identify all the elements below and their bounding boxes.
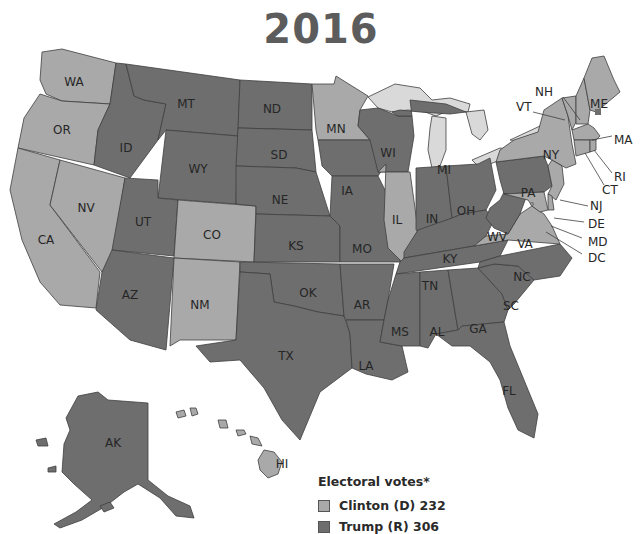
label-ne: NE (272, 193, 289, 207)
label-al: AL (430, 325, 445, 339)
us-electoral-map: WA OR CA NV ID MT WY UT AZ CO NM ND SD N… (0, 0, 642, 534)
legend-item-trump: Trump (R) 306 (318, 516, 446, 534)
label-va: VA (517, 237, 533, 251)
label-nv: NV (77, 201, 95, 215)
label-wa: WA (64, 75, 84, 89)
state-fl[interactable] (436, 322, 538, 438)
label-il: IL (392, 213, 403, 227)
label-fl: FL (502, 384, 516, 398)
label-mn: MN (326, 122, 345, 136)
alaska-island (36, 438, 48, 446)
label-nj: NJ (590, 199, 603, 213)
label-nh: NH (535, 85, 553, 99)
label-or: OR (53, 123, 71, 137)
label-oh: OH (457, 204, 475, 218)
label-ca: CA (38, 233, 55, 247)
label-wi: WI (380, 146, 395, 160)
label-tn: TN (421, 279, 438, 293)
label-mo: MO (352, 242, 372, 256)
state-ri[interactable] (590, 140, 596, 152)
label-ks: KS (288, 239, 304, 253)
label-tx: TX (277, 349, 294, 363)
label-ak: AK (105, 436, 122, 450)
label-nm: NM (190, 298, 209, 312)
state-ak[interactable] (54, 392, 194, 528)
state-ct[interactable] (574, 140, 590, 156)
hawaii-island (218, 420, 228, 428)
legend-item-clinton: Clinton (D) 232 (318, 495, 446, 516)
label-de: DE (588, 217, 605, 231)
label-mi: MI (437, 163, 451, 177)
state-dc[interactable] (531, 203, 534, 206)
label-in: IN (426, 212, 439, 226)
hawaii-island (190, 408, 198, 416)
legend-label-clinton: Clinton (D) 232 (339, 498, 446, 513)
label-hi: HI (276, 457, 289, 471)
hawaii-island (250, 436, 262, 446)
state-ma[interactable] (572, 124, 600, 140)
label-ky: KY (443, 252, 458, 266)
trump-swatch-icon (318, 521, 330, 533)
label-ms: MS (391, 325, 409, 339)
clinton-swatch-icon (318, 500, 330, 512)
label-ia: IA (341, 184, 354, 198)
state-nj[interactable] (548, 160, 564, 200)
label-md: MD (588, 235, 608, 249)
label-vt: VT (516, 100, 532, 114)
label-wy: WY (188, 162, 208, 176)
label-pa: PA (521, 186, 536, 200)
label-wv: WV (487, 230, 508, 244)
hawaii-island (236, 430, 246, 436)
label-nd: ND (263, 102, 281, 116)
label-la: LA (358, 359, 374, 373)
legend-title: Electoral votes* (318, 474, 446, 489)
label-ri: RI (614, 170, 626, 184)
label-me: ME (590, 97, 608, 111)
hawaii-island (176, 410, 186, 418)
label-dc: DC (588, 251, 606, 265)
label-ny: NY (543, 148, 560, 162)
label-ar: AR (354, 298, 371, 312)
label-sc: SC (503, 299, 519, 313)
legend: Electoral votes* Clinton (D) 232 Trump (… (318, 474, 446, 534)
label-mt: MT (177, 97, 195, 111)
label-az: AZ (122, 288, 138, 302)
label-sd: SD (271, 148, 288, 162)
label-id: ID (120, 141, 133, 155)
label-ma: MA (614, 133, 633, 147)
label-co: CO (203, 228, 221, 242)
legend-label-trump: Trump (R) 306 (339, 519, 439, 534)
label-nc: NC (513, 270, 530, 284)
label-ct: CT (602, 183, 618, 197)
label-ok: OK (299, 286, 317, 300)
label-ga: GA (469, 322, 487, 336)
label-ut: UT (135, 215, 152, 229)
alaska-island (48, 466, 56, 472)
